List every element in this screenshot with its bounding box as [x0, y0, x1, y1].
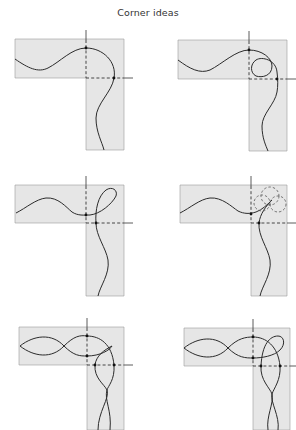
corner-panel-1 [15, 30, 133, 150]
corner-panel-6 [184, 319, 296, 430]
corner-panel-5 [19, 318, 133, 430]
corner-panel-3 [15, 176, 133, 296]
corner-panel-4 [180, 176, 296, 296]
corner-panel-2 [178, 31, 296, 151]
diagram-canvas [0, 0, 296, 430]
